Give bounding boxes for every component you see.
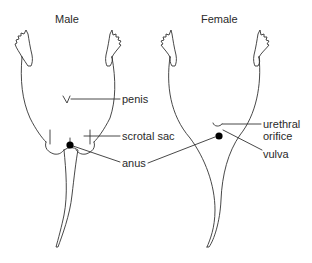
anatomy-diagram: Male Female penis scrotal sac anus ureth…: [0, 0, 312, 263]
male-title: Male: [55, 13, 79, 25]
penis-label: penis: [122, 93, 148, 105]
female-anus-dot: [215, 132, 222, 139]
vulva-label: vulva: [263, 148, 289, 160]
anus-leader-line-male: [73, 146, 120, 162]
vulva-leader-line: [223, 130, 262, 150]
male-body-outline: [15, 30, 121, 247]
urethral-orifice-mark: [213, 123, 222, 126]
male-anus-dot: [66, 141, 73, 148]
urethral-orifice-label-line1: urethral: [263, 118, 300, 130]
female-title: Female: [201, 13, 238, 25]
anus-label: anus: [122, 157, 146, 169]
male-penis-mark: [63, 96, 70, 103]
scrotal-sac-label: scrotal sac: [122, 130, 175, 142]
urethral-orifice-label-line2: orifice: [263, 130, 292, 142]
female-body-outline: [161, 30, 269, 247]
